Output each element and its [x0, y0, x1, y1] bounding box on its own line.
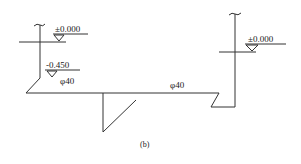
lower-elevation-triangle-icon — [47, 71, 57, 77]
right-top-elevation-label: ±0.000 — [248, 34, 274, 44]
right-offset-diagonal — [211, 93, 219, 107]
drop-branch-diagonal — [103, 100, 136, 132]
left-top-elevation-label: ±0.000 — [55, 24, 81, 34]
left-elbow-segment — [26, 78, 40, 93]
lower-elevation-label: -0.450 — [46, 60, 70, 70]
main-pipe-diameter-label: φ40 — [170, 80, 185, 90]
pipe-diagram: ±0.000 -0.450 φ40 φ40 ±0.000 (b) — [0, 0, 301, 164]
figure-caption: (b) — [140, 140, 150, 149]
left-top-elevation-triangle-icon — [54, 35, 64, 41]
left-pipe-diameter-label: φ40 — [60, 76, 75, 86]
right-top-elevation-triangle-icon — [246, 45, 258, 51]
